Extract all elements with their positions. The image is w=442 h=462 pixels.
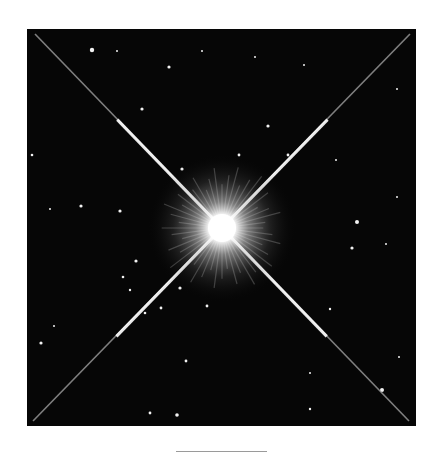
star [385, 243, 387, 245]
star [149, 412, 152, 415]
star [129, 289, 131, 291]
star [39, 341, 42, 344]
star [335, 159, 337, 161]
star [303, 64, 305, 66]
star [118, 209, 121, 212]
caption-rule [176, 451, 267, 452]
star [309, 372, 311, 374]
star [396, 88, 398, 90]
star [398, 356, 400, 358]
star [122, 276, 125, 279]
star [116, 50, 118, 52]
star [134, 259, 137, 262]
star [185, 360, 188, 363]
star [144, 312, 147, 315]
star [287, 154, 290, 157]
star [266, 124, 269, 127]
star [167, 65, 170, 68]
star-core [208, 214, 236, 242]
star-photograph [27, 29, 416, 426]
star [31, 154, 34, 157]
star [201, 50, 203, 52]
star [309, 408, 311, 410]
star [140, 107, 143, 110]
star [254, 56, 256, 58]
star [90, 48, 94, 52]
star [350, 246, 353, 249]
star [329, 308, 331, 310]
star-field [27, 29, 416, 426]
star [53, 325, 55, 327]
star [175, 413, 179, 417]
star [160, 307, 163, 310]
star [355, 220, 359, 224]
star [79, 204, 82, 207]
star [396, 196, 398, 198]
star [206, 305, 209, 308]
bright-star [147, 153, 297, 303]
star [49, 208, 51, 210]
